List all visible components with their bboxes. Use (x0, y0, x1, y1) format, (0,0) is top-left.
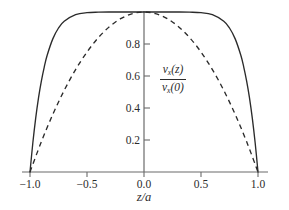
y-tick-label-0-2: 0.2 (120, 134, 140, 146)
x-axis-title: z/a (137, 190, 152, 205)
y-tick-label-0-6: 0.6 (120, 70, 140, 82)
y-axis-title-denominator: vx(0) (160, 80, 186, 96)
y-axis-title: vx(z) vx(0) (160, 63, 186, 95)
x-tick-label-1: 1.0 (251, 178, 265, 190)
y-axis-title-numerator: vx(z) (160, 63, 186, 80)
numerator-argument: (z) (171, 63, 183, 75)
y-axis-ticks (144, 44, 150, 140)
x-tick-label-neg1: −1.0 (20, 178, 41, 190)
x-tick-label-0: 0.0 (137, 178, 151, 190)
denominator-argument: (0) (170, 81, 183, 93)
x-tick-label-0-5: 0.5 (194, 178, 208, 190)
y-tick-label-0-4: 0.4 (120, 102, 140, 114)
y-tick-label-0-8: 0.8 (120, 38, 140, 50)
x-axis-ticks (30, 172, 258, 177)
velocity-profile-chart: −1.0 −0.5 0.0 0.5 1.0 0.2 0.4 0.6 0.8 z/… (0, 0, 289, 210)
x-tick-label-neg0-5: −0.5 (77, 178, 98, 190)
